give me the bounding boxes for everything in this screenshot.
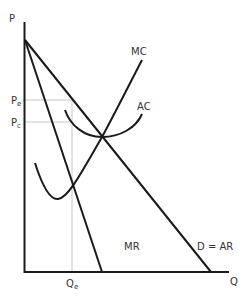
pc-label: Pc <box>11 117 21 130</box>
y-axis-label: P <box>9 13 15 24</box>
x-axis-label: Q <box>230 276 238 287</box>
economics-diagram: P Q Pe Pc Qe MC AC MR D = AR <box>0 0 251 300</box>
ac-label: AC <box>137 101 151 112</box>
mc-curve <box>35 60 142 199</box>
demand-curve <box>25 40 211 272</box>
pe-label: Pe <box>11 95 21 108</box>
mc-label: MC <box>131 46 147 57</box>
demand-label: D = AR <box>197 241 233 252</box>
qe-label: Qe <box>66 278 78 291</box>
mr-label: MR <box>124 241 140 252</box>
